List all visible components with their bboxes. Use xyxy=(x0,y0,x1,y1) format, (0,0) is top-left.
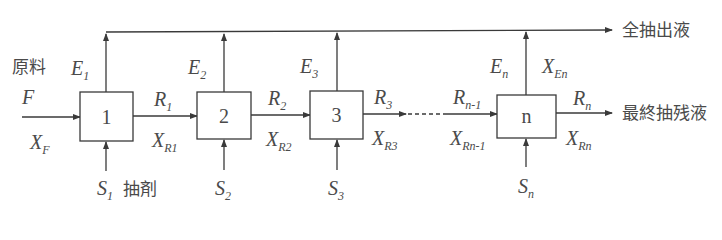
extract-label-n: En xyxy=(490,56,508,80)
solvent-name-label: 抽剤 xyxy=(123,181,157,198)
total-extract-label: 全抽出液 xyxy=(622,22,690,39)
raffinate-composition-1: XR1 xyxy=(152,130,178,154)
final-raffinate-label: 最終抽残液 xyxy=(622,105,707,122)
raffinate-composition-2: XR2 xyxy=(266,129,292,153)
extract-label-2: E2 xyxy=(188,57,206,81)
solvent-label-n: Sn xyxy=(518,176,534,200)
stage-number-2: 2 xyxy=(197,106,251,126)
stage-number-3: 3 xyxy=(310,105,363,125)
raffinate-label-2: R2 xyxy=(268,88,286,112)
raffinate-label-n-1: Rn-1 xyxy=(453,87,481,111)
extract-label-3: E3 xyxy=(300,56,318,80)
feed-symbol: F xyxy=(22,87,34,107)
extract-label-1: E1 xyxy=(71,58,89,82)
raffinate-composition-n-1: XRn-1 xyxy=(450,128,486,152)
raffinate-composition-n: XRn xyxy=(566,128,592,152)
solvent-label-3: S3 xyxy=(328,178,344,202)
raffinate-composition-3: XR3 xyxy=(372,128,398,152)
raffinate-label-n: Rn xyxy=(573,88,591,112)
feed-name-label: 原料 xyxy=(12,59,46,76)
feed-composition: XF xyxy=(30,132,50,156)
extract-composition-n: XEn xyxy=(542,56,568,80)
solvent-label-2: S2 xyxy=(215,178,231,202)
raffinate-label-1: R1 xyxy=(154,89,172,113)
solvent-label-1: S1 xyxy=(97,178,113,202)
stage-number-n: n xyxy=(497,106,556,126)
stage-number-1: 1 xyxy=(80,107,133,127)
extract-collector-line xyxy=(106,30,612,32)
raffinate-label-3: R3 xyxy=(374,87,392,111)
